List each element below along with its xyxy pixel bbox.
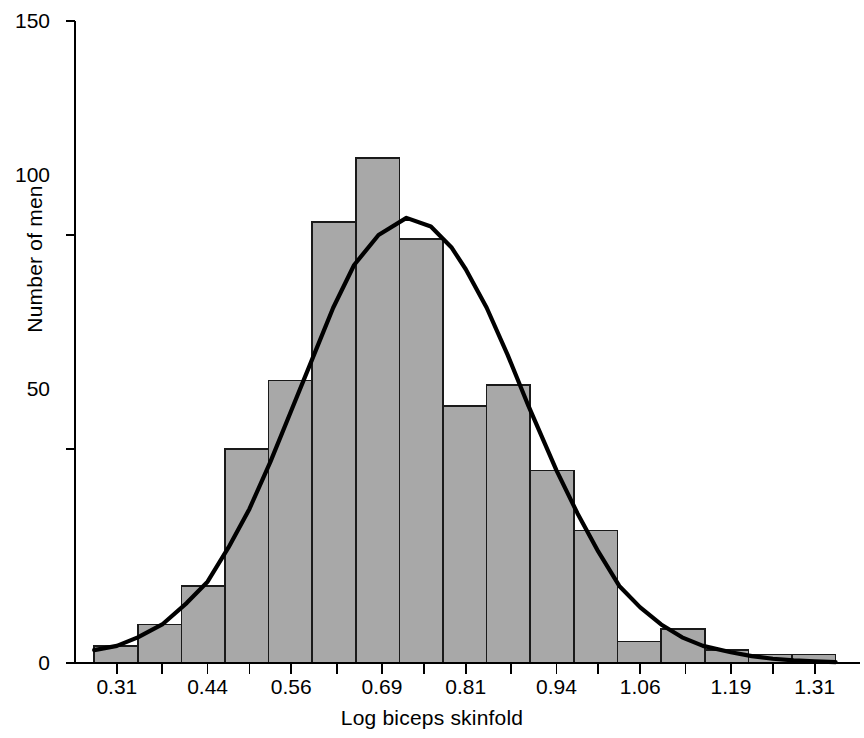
histogram-bar bbox=[618, 642, 662, 663]
x-tick-label: 0.56 bbox=[256, 676, 326, 697]
x-tick-label: 0.81 bbox=[431, 676, 501, 697]
x-tick-label: 1.19 bbox=[696, 676, 766, 697]
x-tick-label: 0.31 bbox=[82, 676, 152, 697]
x-tick-label: 1.31 bbox=[780, 676, 850, 697]
histogram-bar bbox=[443, 406, 487, 663]
histogram-bar bbox=[530, 470, 574, 663]
histogram-bar bbox=[487, 385, 531, 663]
chart-canvas bbox=[0, 0, 864, 738]
x-tick-label: 0.94 bbox=[521, 676, 591, 697]
y-axis-title: Number of men bbox=[23, 129, 47, 389]
x-tick-label: 0.44 bbox=[173, 676, 243, 697]
histogram-bar bbox=[181, 586, 225, 663]
histogram-figure: 150 100 50 0 Number of men 0.310.440.560… bbox=[0, 0, 864, 738]
y-tick-label-0: 0 bbox=[0, 652, 50, 673]
histogram-bar bbox=[312, 222, 356, 663]
x-tick-label: 0.69 bbox=[347, 676, 417, 697]
x-axis-title: Log biceps skinfold bbox=[0, 706, 864, 730]
y-tick-label-150: 150 bbox=[0, 10, 50, 31]
histogram-bar bbox=[138, 624, 182, 663]
histogram-bar bbox=[269, 381, 313, 663]
x-tick-label: 1.06 bbox=[605, 676, 675, 697]
histogram-bar bbox=[399, 239, 443, 663]
